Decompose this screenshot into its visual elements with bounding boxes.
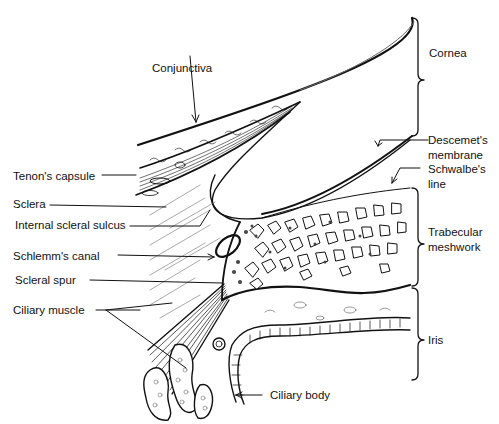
label-sclera: Sclera (13, 198, 46, 211)
label-ciliary-muscle: Ciliary muscle (13, 304, 85, 317)
trabecular-brace (412, 188, 424, 286)
label-tenons-capsule: Tenon's capsule (13, 170, 95, 183)
label-cornea: Cornea (429, 47, 467, 60)
label-ciliary-body: Ciliary body (270, 389, 330, 402)
label-scleral-spur: Scleral spur (15, 274, 76, 287)
anatomy-illustration (0, 0, 499, 424)
label-internal-scleral-sulcus: Internal scleral sulcus (15, 219, 126, 232)
label-schwalbes-line: Schwalbe's line (428, 162, 492, 192)
eye-angle-diagram: Conjunctiva Tenon's capsule Sclera Inter… (0, 0, 499, 424)
label-iris: Iris (428, 334, 443, 347)
cornea-brace (412, 18, 424, 136)
label-conjunctiva: Conjunctiva (152, 62, 212, 75)
label-descemets-membrane: Descemet's membrane (428, 133, 499, 163)
label-schlemms-canal: Schlemm's canal (13, 250, 100, 263)
cornea-posterior-surface (212, 102, 410, 219)
label-trabecular-meshwork: Trabecular meshwork (428, 225, 498, 255)
iris-anterior-border (222, 285, 410, 300)
iris-brace (412, 288, 424, 380)
schlemms-canal-shape (212, 231, 244, 261)
